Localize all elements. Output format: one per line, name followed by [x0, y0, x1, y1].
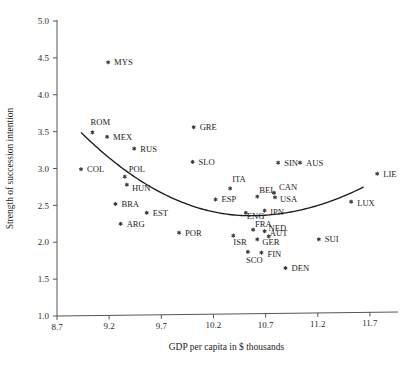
- x-tick-label: 8.7: [51, 322, 63, 332]
- data-point[interactable]: ISR: [232, 234, 247, 247]
- point-label-rom: ROM: [90, 117, 110, 127]
- scatter-chart-figure: 1.01.52.02.53.03.54.04.55.08.79.29.710.2…: [0, 0, 405, 370]
- y-tick-label: 5.0: [38, 16, 50, 26]
- point-label-lie: LIE: [383, 169, 396, 179]
- chart-canvas: 1.01.52.02.53.03.54.04.55.08.79.29.710.2…: [0, 0, 405, 370]
- marker-gre-icon: [192, 126, 195, 129]
- data-point[interactable]: GRE: [192, 122, 217, 132]
- y-tick-label: 4.5: [38, 53, 50, 63]
- marker-pol-icon: [123, 175, 126, 178]
- data-point[interactable]: ITA: [229, 174, 247, 190]
- marker-est-icon: [145, 211, 148, 214]
- y-tick-label: 1.5: [38, 274, 50, 284]
- marker-ger-icon: [256, 238, 259, 241]
- point-label-ita: ITA: [232, 174, 246, 184]
- marker-slo-icon: [191, 160, 194, 163]
- data-point[interactable]: MYS: [107, 57, 133, 67]
- point-label-arg: ARG: [127, 219, 145, 229]
- point-label-esp: ESP: [222, 194, 237, 204]
- point-label-mys: MYS: [114, 57, 133, 67]
- point-label-mex: MEX: [113, 132, 133, 142]
- y-tick-label: 2.5: [38, 201, 50, 211]
- marker-sui-icon: [317, 238, 320, 241]
- data-point[interactable]: GER: [256, 237, 280, 247]
- marker-arg-icon: [119, 222, 122, 225]
- x-tick-label: 9.7: [156, 321, 168, 331]
- y-tick-label: 3.0: [38, 164, 50, 174]
- x-tick-label: 11.7: [362, 318, 378, 328]
- data-point[interactable]: LUX: [350, 198, 376, 208]
- x-tick-label: 9.2: [104, 321, 115, 331]
- data-point[interactable]: LIE: [376, 169, 397, 179]
- x-tick-label: 11.2: [310, 319, 325, 329]
- point-label-fin: FIN: [267, 249, 282, 259]
- point-label-sco: SCO: [246, 255, 263, 265]
- point-label-hun: HUN: [132, 183, 151, 193]
- marker-ned-icon: [263, 230, 266, 233]
- data-point[interactable]: ARG: [119, 219, 144, 229]
- data-point[interactable]: COL: [80, 164, 105, 174]
- x-axis-title: GDP per capita in $ thousands: [169, 342, 285, 352]
- marker-aus-icon: [299, 161, 302, 164]
- y-axis-title: Strength of succession intention: [5, 107, 15, 229]
- point-label-ger: GER: [262, 237, 279, 247]
- marker-mys-icon: [107, 61, 110, 64]
- point-label-col: COL: [87, 164, 104, 174]
- data-points: MYSROMGREMEXRUSSLOSINAUSCOLLIEPOLHUNITAC…: [80, 57, 397, 273]
- point-label-pol: POL: [129, 164, 145, 174]
- data-point[interactable]: CAN: [273, 182, 298, 195]
- data-point[interactable]: RUS: [133, 144, 157, 154]
- data-point[interactable]: SUI: [317, 234, 338, 244]
- y-tick-label: 1.0: [38, 311, 50, 321]
- marker-lux-icon: [350, 200, 353, 203]
- point-label-bel: BEL: [259, 185, 275, 195]
- marker-usa-icon: [274, 196, 277, 199]
- data-point[interactable]: DEN: [284, 263, 310, 273]
- marker-rus-icon: [133, 147, 136, 150]
- data-point[interactable]: SCO: [246, 250, 263, 265]
- y-tick-label: 4.0: [38, 90, 50, 100]
- data-point[interactable]: USA: [274, 194, 298, 204]
- marker-col-icon: [80, 168, 83, 171]
- data-point[interactable]: BEL: [256, 185, 276, 199]
- data-point[interactable]: AUS: [299, 158, 324, 168]
- y-tick-label: 3.5: [38, 127, 50, 137]
- x-tick-label: 10.2: [206, 320, 222, 330]
- point-label-jpn: JPN: [270, 207, 285, 217]
- point-label-bra: BRA: [121, 199, 139, 209]
- data-point[interactable]: HUN: [126, 183, 152, 193]
- marker-rom-icon: [91, 131, 94, 134]
- marker-esp-icon: [214, 198, 217, 201]
- data-point[interactable]: BRA: [114, 199, 140, 209]
- x-tick-label: 10.7: [258, 320, 274, 330]
- point-label-sin: SIN: [284, 158, 299, 168]
- marker-sco-icon: [247, 250, 250, 253]
- marker-sin-icon: [277, 161, 280, 164]
- data-point[interactable]: SLO: [191, 157, 215, 167]
- point-label-isr: ISR: [233, 237, 247, 247]
- marker-fin-icon: [260, 251, 263, 254]
- point-label-can: CAN: [279, 182, 298, 192]
- data-point[interactable]: MEX: [106, 132, 133, 142]
- data-point[interactable]: ROM: [90, 117, 110, 134]
- point-label-slo: SLO: [199, 157, 215, 167]
- marker-por-icon: [178, 231, 181, 234]
- point-label-aus: AUS: [306, 158, 323, 168]
- marker-ita-icon: [229, 187, 232, 190]
- marker-mex-icon: [106, 135, 109, 138]
- point-label-lux: LUX: [357, 198, 375, 208]
- y-tick-label: 2.0: [38, 237, 50, 247]
- data-point[interactable]: EST: [145, 208, 168, 218]
- data-point[interactable]: POR: [178, 228, 202, 238]
- point-label-gre: GRE: [200, 122, 217, 132]
- data-point[interactable]: SIN: [277, 158, 299, 168]
- point-label-den: DEN: [291, 263, 309, 273]
- marker-bel-icon: [256, 195, 259, 198]
- point-label-usa: USA: [280, 194, 298, 204]
- marker-hun-icon: [126, 183, 129, 186]
- data-point[interactable]: ESP: [214, 194, 236, 204]
- point-label-rus: RUS: [140, 144, 157, 154]
- point-label-sui: SUI: [325, 234, 339, 244]
- x-axis-line: [57, 312, 398, 316]
- data-point[interactable]: FIN: [260, 249, 282, 259]
